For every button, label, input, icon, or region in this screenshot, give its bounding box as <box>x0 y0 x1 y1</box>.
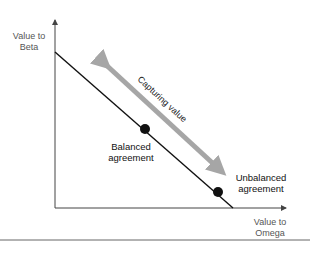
x-axis-label-line2: Omega <box>245 228 295 239</box>
y-axis-label-line2: Beta <box>5 42 53 53</box>
balanced-agreement-point <box>140 124 150 134</box>
y-axis-label: Value to Beta <box>5 31 53 53</box>
y-axis-label-line1: Value to <box>5 31 53 42</box>
balanced-label-line1: Balanced <box>96 141 166 152</box>
balanced-agreement-label: Balanced agreement <box>96 141 166 163</box>
x-axis-label: Value to Omega <box>245 217 295 239</box>
unbalanced-agreement-point <box>213 187 223 197</box>
unbalanced-label-line2: agreement <box>226 183 296 194</box>
unbalanced-label-line1: Unbalanced <box>226 172 296 183</box>
x-axis-label-line1: Value to <box>245 217 295 228</box>
unbalanced-agreement-label: Unbalanced agreement <box>226 172 296 194</box>
balanced-label-line2: agreement <box>96 152 166 163</box>
